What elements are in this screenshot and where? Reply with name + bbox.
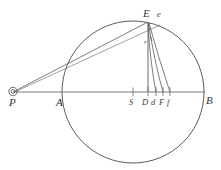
label-point-b: B — [206, 94, 213, 106]
segment-p-to-e-upper — [14, 22, 148, 92]
label-point-f-capital: F — [158, 97, 165, 107]
label-point-s: S — [129, 97, 134, 107]
label-point-e-capital: E — [142, 7, 150, 19]
figure-container: P A S D d F f B E e r — [0, 0, 221, 170]
geometry-diagram: P A S D d F f B E e r — [0, 0, 221, 170]
segment-p-to-e-lower — [14, 25, 160, 92]
label-point-f-small: f — [167, 97, 171, 107]
label-point-r: r — [144, 38, 147, 46]
label-point-a: A — [55, 96, 63, 108]
label-point-d-capital: D — [141, 97, 149, 107]
label-point-p: P — [8, 96, 16, 108]
label-point-e-small: e — [157, 9, 161, 19]
label-point-d-small: d — [151, 97, 156, 107]
arc-e-to-f-small — [149, 23, 170, 92]
